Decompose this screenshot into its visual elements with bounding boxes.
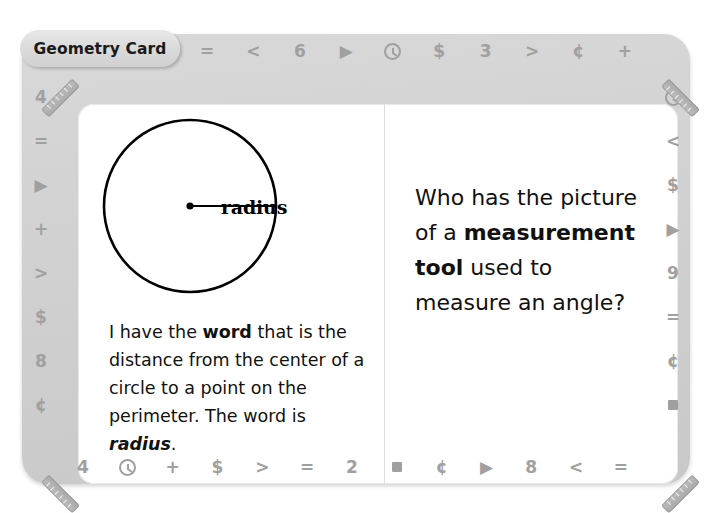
border-symbol-clock	[117, 456, 139, 478]
border-symbols-top: =<6▶$3>¢+	[196, 36, 636, 66]
border-symbols-bottom: 4+$>=2¢▶8<=	[72, 452, 632, 482]
border-symbol: ▶	[30, 174, 52, 196]
border-symbol: 4	[72, 456, 94, 478]
answer-text-part3: .	[171, 434, 177, 454]
border-symbol: $	[30, 306, 52, 328]
border-symbol: ¢	[568, 40, 590, 62]
answer-text-part1: I have the	[109, 322, 203, 342]
clock-icon	[119, 459, 136, 476]
border-symbol: ¢	[431, 456, 453, 478]
border-symbol: 3	[475, 40, 497, 62]
border-symbol: ¢	[662, 350, 684, 372]
border-symbol: +	[614, 40, 636, 62]
border-symbol: 2	[341, 456, 363, 478]
border-symbol: <	[565, 456, 587, 478]
clock-icon	[384, 43, 401, 60]
border-symbols-left: 4=▶+>$8¢	[26, 86, 56, 416]
border-symbol: =	[30, 130, 52, 152]
border-symbol: =	[296, 456, 318, 478]
radius-figure-label: radius	[221, 196, 287, 218]
border-symbol: =	[196, 40, 218, 62]
border-symbol: <	[242, 40, 264, 62]
answer-text-bold-word: word	[203, 322, 252, 342]
border-symbol: 9	[662, 262, 684, 284]
center-dot-icon	[186, 202, 193, 209]
border-symbol-square	[662, 394, 684, 416]
border-symbol: >	[30, 262, 52, 284]
answer-text-bold-italic-radius: radius	[109, 434, 171, 454]
border-symbol: +	[30, 218, 52, 240]
border-symbol: ▶	[475, 456, 497, 478]
border-symbol: +	[162, 456, 184, 478]
border-symbol: >	[251, 456, 273, 478]
border-symbol: 8	[520, 456, 542, 478]
border-symbol-square	[386, 456, 408, 478]
border-symbol: ▶	[662, 218, 684, 240]
border-symbol: >	[521, 40, 543, 62]
border-symbol: 6	[289, 40, 311, 62]
square-icon	[668, 400, 678, 410]
border-symbol: $	[662, 174, 684, 196]
square-icon	[392, 462, 402, 472]
question-panel: Who has the picture of a measurement too…	[385, 104, 678, 484]
answer-text: I have the word that is the distance fro…	[109, 318, 369, 458]
border-symbol-clock	[382, 40, 404, 62]
border-symbols-right: <$▶9=¢	[658, 86, 688, 416]
border-symbol: =	[662, 306, 684, 328]
card-page: radius I have the word that is the dista…	[78, 104, 678, 484]
geometry-card-tab[interactable]: Geometry Card	[20, 30, 180, 67]
question-text: Who has the picture of a measurement too…	[415, 180, 650, 320]
border-symbol: <	[662, 130, 684, 152]
geometry-card-tab-label: Geometry Card	[34, 40, 167, 58]
geometry-card-frame: radius I have the word that is the dista…	[22, 34, 690, 484]
border-symbol: ¢	[30, 394, 52, 416]
border-symbol: $	[428, 40, 450, 62]
border-symbol: 8	[30, 350, 52, 372]
border-symbol: =	[610, 456, 632, 478]
border-symbol: $	[206, 456, 228, 478]
answer-panel: radius I have the word that is the dista…	[78, 104, 384, 484]
border-symbol: ▶	[335, 40, 357, 62]
